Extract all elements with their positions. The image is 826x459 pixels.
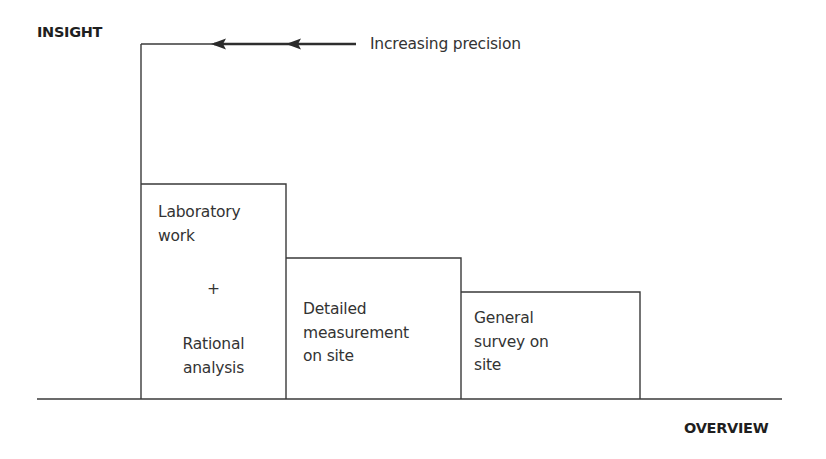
arrow-annotation: Increasing precision [370, 35, 521, 53]
label-line: Detailed [303, 298, 409, 322]
label-line: site [474, 354, 549, 378]
x-axis-label: OVERVIEW [684, 420, 768, 436]
label-line: Laboratory [158, 201, 240, 225]
label-line: on site [303, 345, 409, 369]
plus-connector: + [141, 278, 286, 302]
label-line: analysis [141, 357, 286, 381]
label-line: work [158, 225, 240, 249]
precision-diagram: INSIGHT OVERVIEW Increasing precision La… [0, 0, 826, 459]
label-line: survey on [474, 331, 549, 355]
detailed-measurement-label: Detailed measurement on site [303, 298, 409, 369]
rational-analysis-label: Rational analysis [141, 333, 286, 380]
y-axis-label: INSIGHT [37, 24, 102, 40]
label-line: Rational [141, 333, 286, 357]
general-survey-label: General survey on site [474, 307, 549, 378]
label-line: General [474, 307, 549, 331]
laboratory-work-label: Laboratory work [158, 201, 240, 248]
diagram-lines [0, 0, 826, 459]
label-line: measurement [303, 322, 409, 346]
